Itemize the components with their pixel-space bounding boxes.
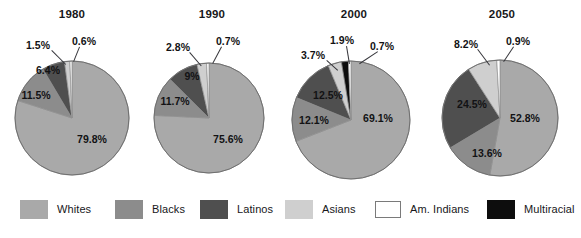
chart-title-2050: 2050: [489, 8, 515, 20]
multiracial-swatch: [487, 200, 515, 219]
chart-title-1980: 1980: [59, 8, 85, 20]
chart-title-1990: 1990: [199, 8, 225, 20]
pie-2050: [439, 57, 561, 179]
legend-label: Latinos: [237, 203, 273, 215]
slice-label: 12.1%: [299, 114, 329, 126]
slice-label: 2.8%: [166, 41, 190, 53]
legend-item-latinos[interactable]: Latinos: [200, 199, 273, 219]
slice-label: 11.5%: [21, 89, 50, 101]
slice-label: 0.7%: [216, 35, 240, 47]
slice-label: 0.6%: [72, 35, 96, 47]
legend-label: Whites: [57, 203, 91, 215]
blacks-swatch: [115, 200, 143, 219]
legend-item-am-indians[interactable]: Am. Indians: [375, 199, 469, 219]
slice-label: 6.4%: [36, 64, 60, 76]
pie-1980: [12, 58, 132, 178]
pie-chart-figure: 198079.8%11.5%6.4%1.5%0.6%199075.6%11.7%…: [0, 0, 581, 238]
slice-label: 69.1%: [363, 112, 393, 124]
slice-label: 1.9%: [330, 34, 354, 46]
latinos-swatch: [200, 200, 228, 219]
legend-label: Am. Indians: [410, 203, 469, 215]
legend-label: Blacks: [152, 203, 185, 215]
asians-swatch: [285, 200, 313, 219]
slice-label: 13.6%: [472, 147, 502, 159]
slice-label: 52.8%: [510, 112, 540, 124]
slice-label: 3.7%: [301, 49, 325, 61]
slice-label: 1.5%: [26, 39, 50, 51]
chart-title-2000: 2000: [341, 8, 367, 20]
slice-label: 11.7%: [160, 95, 189, 107]
am-indians-swatch: [375, 201, 401, 218]
slice-label: 24.5%: [457, 98, 487, 110]
slice-label: 79.8%: [77, 133, 107, 145]
legend-label: Asians: [322, 203, 356, 215]
slice-label: 8.2%: [454, 38, 478, 50]
legend-item-whites[interactable]: Whites: [20, 199, 91, 219]
slice-label: 0.7%: [370, 40, 394, 52]
slice-label: 75.6%: [213, 133, 243, 145]
slice-label: 0.9%: [506, 35, 530, 47]
chart-legend: WhitesBlacksLatinosAsiansAm. IndiansMult…: [0, 193, 581, 225]
slice-label: 12.5%: [313, 89, 343, 101]
legend-item-blacks[interactable]: Blacks: [115, 199, 185, 219]
slice-label: 9%: [184, 70, 199, 82]
whites-swatch: [20, 200, 48, 219]
legend-item-asians[interactable]: Asians: [285, 199, 356, 219]
pie-1990: [151, 60, 267, 176]
legend-label: Multiracial: [524, 203, 575, 215]
legend-item-multiracial[interactable]: Multiracial: [487, 199, 575, 219]
